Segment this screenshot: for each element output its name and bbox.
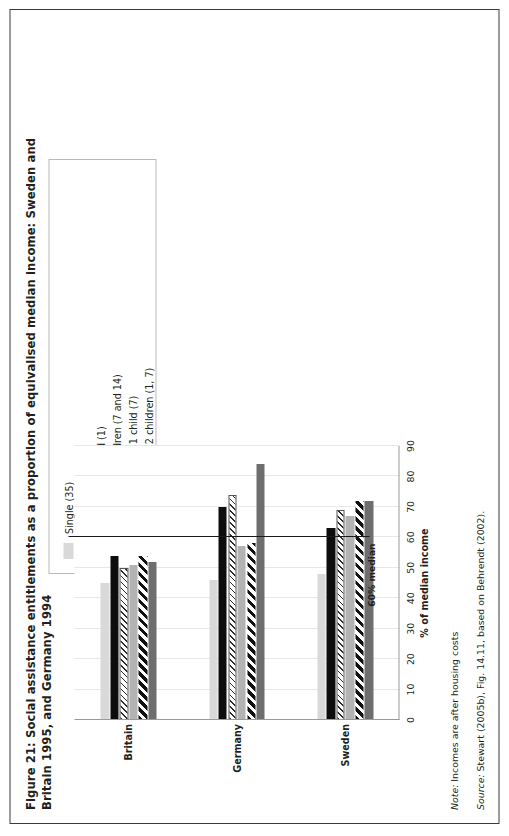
bar [228, 495, 236, 720]
bar [218, 507, 226, 720]
category-label: Sweden [339, 724, 350, 778]
source-lead: Source: [474, 774, 485, 810]
category-label: Britain [123, 724, 134, 778]
bar [256, 464, 264, 720]
figure-note: Note: Incomes are after housing costs [448, 632, 459, 810]
x-tick-label: 70 [404, 501, 415, 513]
figure-source: Source: Stewart (2005b), Fig. 14.11, bas… [474, 511, 485, 810]
bar [317, 574, 325, 720]
x-axis-line [398, 446, 399, 720]
x-axis-title: % of median income [418, 446, 429, 720]
light-grey-swatch [63, 543, 73, 559]
note-text: Incomes are after housing costs [448, 632, 459, 785]
gridline [74, 475, 399, 476]
bar [209, 580, 217, 720]
gridline [74, 506, 399, 507]
x-tick-label: 90 [404, 440, 415, 452]
bar [100, 583, 108, 720]
bar [355, 501, 363, 720]
plot-area: 60% median [74, 446, 399, 720]
median-reference-line [68, 536, 369, 537]
bar [336, 510, 344, 720]
source-text: Stewart (2005b), Fig. 14.11, based on Be… [474, 511, 485, 775]
bar [345, 516, 353, 720]
note-lead: Note: [448, 785, 459, 810]
gridline [74, 445, 399, 446]
x-tick-label: 40 [404, 592, 415, 604]
x-tick-label: 20 [404, 653, 415, 665]
x-tick-label: 60 [404, 531, 415, 543]
legend-item-label: Single (35) [63, 482, 74, 534]
figure-canvas: Figure 21: Social assistance entitlement… [0, 0, 509, 836]
bar [237, 546, 245, 720]
x-tick-label: 80 [404, 470, 415, 482]
bar [129, 565, 137, 720]
chart-plot: 60% median 0102030405060708090 BritainGe… [74, 446, 429, 778]
median-reference-label: 60% median [365, 539, 376, 606]
figure-rotated-container: Figure 21: Social assistance entitlement… [0, 0, 509, 836]
bar [247, 543, 255, 720]
x-tick-label: 0 [404, 717, 415, 723]
bar [119, 568, 127, 720]
x-tick-label: 10 [404, 684, 415, 696]
bar [138, 556, 146, 720]
x-tick-label: 50 [404, 562, 415, 574]
x-tick-label: 30 [404, 623, 415, 635]
bar [364, 501, 372, 720]
bar [148, 562, 156, 720]
bar [110, 556, 118, 720]
category-label: Germany [231, 724, 242, 778]
legend-item: Single (35) [61, 174, 76, 559]
y-axis-line [74, 719, 399, 720]
bar [326, 528, 334, 720]
